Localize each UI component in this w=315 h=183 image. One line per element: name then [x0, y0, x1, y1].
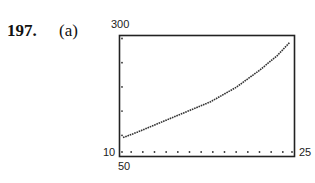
y-tick-dots	[121, 38, 123, 137]
function-curve	[123, 42, 290, 137]
viewing-window-frame	[120, 36, 295, 157]
calculator-graph	[0, 0, 315, 183]
x-tick-dots	[121, 151, 293, 153]
